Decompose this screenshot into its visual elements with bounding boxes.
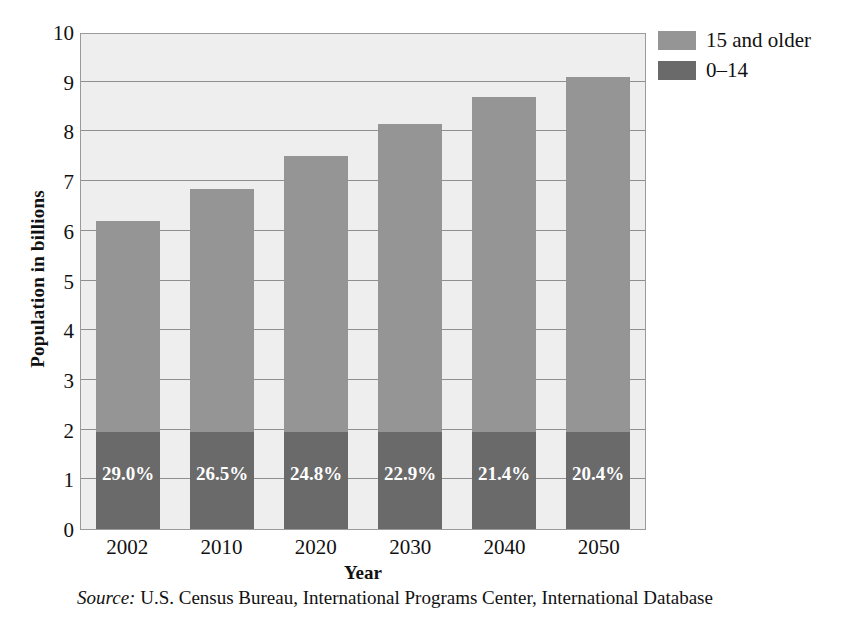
legend-label: 15 and older <box>706 30 811 51</box>
bar-segment-15-and-older <box>378 124 442 432</box>
y-axis-tick-labels: 012345678910 <box>24 0 74 618</box>
bar-2002: 29.0% <box>96 34 160 529</box>
x-tick-label: 2040 <box>472 533 536 563</box>
bar-percent-label: 29.0% <box>102 463 154 485</box>
bar-percent-label: 20.4% <box>572 463 624 485</box>
x-tick-label: 2050 <box>567 533 631 563</box>
y-tick-label: 7 <box>34 172 74 193</box>
bar-percent-label: 26.5% <box>196 463 248 485</box>
legend-item: 0–14 <box>658 58 858 82</box>
legend-swatch-icon <box>658 61 696 80</box>
bar-segment-0-14: 20.4% <box>566 432 630 529</box>
bar-2020: 24.8% <box>284 34 348 529</box>
bar-segment-0-14: 21.4% <box>472 432 536 529</box>
bar-segment-0-14: 24.8% <box>284 432 348 529</box>
y-tick-label: 9 <box>34 72 74 93</box>
y-tick-label: 3 <box>34 370 74 391</box>
y-tick-label: 0 <box>34 520 74 541</box>
source-prefix: Source: <box>77 587 135 608</box>
bar-segment-15-and-older <box>472 97 536 432</box>
bar-group: 29.0%26.5%24.8%22.9%21.4%20.4% <box>81 34 645 529</box>
legend-swatch-icon <box>658 31 696 50</box>
y-tick-label: 10 <box>34 23 74 44</box>
x-tick-label: 2030 <box>378 533 442 563</box>
x-axis-tick-labels: 200220102020203020402050 <box>80 533 646 563</box>
y-tick-label: 6 <box>34 221 74 242</box>
x-axis-title: Year <box>80 562 646 584</box>
source-note: Source: U.S. Census Bureau, Internationa… <box>0 587 790 609</box>
bar-segment-15-and-older <box>284 156 348 431</box>
y-tick-label: 8 <box>34 122 74 143</box>
chart-figure: Population in billions 012345678910 29.0… <box>0 0 861 618</box>
y-tick-label: 5 <box>34 271 74 292</box>
chart-legend: 15 and older0–14 <box>658 28 858 88</box>
y-tick-label: 4 <box>34 321 74 342</box>
x-tick-label: 2002 <box>95 533 159 563</box>
y-tick-label: 1 <box>34 470 74 491</box>
y-tick-label: 2 <box>34 420 74 441</box>
x-tick-label: 2010 <box>189 533 253 563</box>
bar-segment-15-and-older <box>96 221 160 432</box>
legend-item: 15 and older <box>658 28 858 52</box>
bar-2040: 21.4% <box>472 34 536 529</box>
bar-segment-0-14: 22.9% <box>378 432 442 529</box>
bar-segment-0-14: 26.5% <box>190 432 254 529</box>
bar-segment-0-14: 29.0% <box>96 432 160 529</box>
plot-area: 29.0%26.5%24.8%22.9%21.4%20.4% <box>80 33 646 530</box>
bar-2050: 20.4% <box>566 34 630 529</box>
bar-segment-15-and-older <box>566 77 630 432</box>
bar-2030: 22.9% <box>378 34 442 529</box>
bar-percent-label: 24.8% <box>290 463 342 485</box>
legend-label: 0–14 <box>706 60 748 81</box>
bar-percent-label: 22.9% <box>384 463 436 485</box>
bar-percent-label: 21.4% <box>478 463 530 485</box>
source-text: U.S. Census Bureau, International Progra… <box>135 587 713 608</box>
x-tick-label: 2020 <box>284 533 348 563</box>
bar-segment-15-and-older <box>190 189 254 432</box>
bar-2010: 26.5% <box>190 34 254 529</box>
